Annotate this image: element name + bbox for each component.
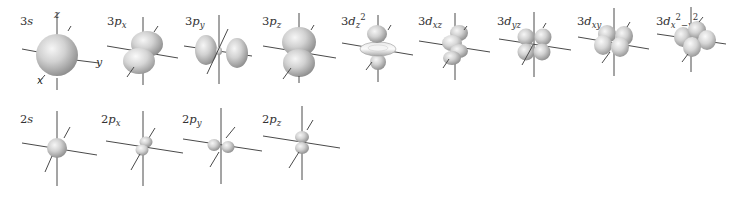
- orbital-label-2pz: 2pz: [262, 112, 282, 128]
- orbital-label-3dz2: 3dz2: [341, 12, 366, 30]
- orbital-label-2s: 2s: [20, 112, 33, 126]
- orbital-labels: 3s3px3py3pz3dz23dxz3dyz3dxy3dx2−y22s2px2…: [20, 12, 698, 128]
- orbital-3s: z y x: [22, 8, 103, 90]
- orbital-label-2py: 2py: [182, 112, 202, 128]
- orbital-label-2px: 2px: [101, 112, 121, 128]
- orbital-figure: 3s3px3py3pz3dz23dxz3dyz3dxy3dx2−y22s2px2…: [0, 0, 735, 197]
- orbital-label-3dyz: 3dyz: [497, 14, 522, 30]
- orbital-2s: [22, 111, 97, 186]
- orbital-label-3dxz: 3dxz: [418, 14, 442, 30]
- orbital-label-3py: 3py: [185, 14, 205, 30]
- orbital-label-3px: 3px: [107, 14, 127, 30]
- z-axis-label: z: [53, 8, 60, 21]
- orbital-label-3dxy: 3dxy: [577, 14, 601, 30]
- orbital-label-3s: 3s: [20, 14, 33, 28]
- orbital-label-3pz: 3pz: [262, 14, 282, 30]
- x-axis-label: x: [37, 74, 44, 87]
- y-axis-label: y: [95, 56, 103, 69]
